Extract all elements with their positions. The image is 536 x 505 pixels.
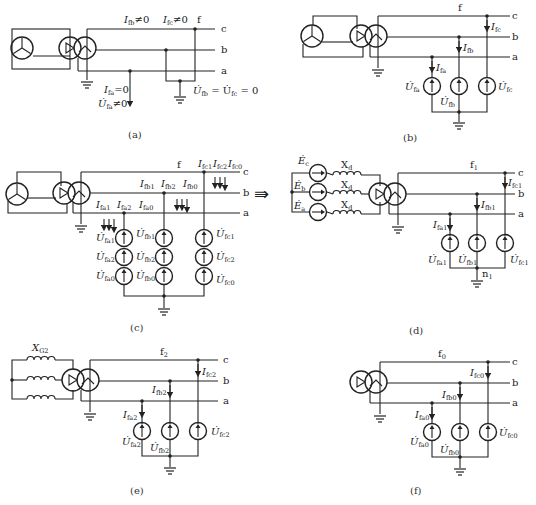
ufb2-label: U̇fb2: [150, 442, 169, 455]
phase-b-label: b: [223, 375, 229, 386]
ifc-label: Ifc: [490, 21, 501, 34]
current-arrows-c: [215, 177, 225, 188]
inductor-icon: [27, 357, 55, 361]
transformer-icon: [62, 369, 99, 391]
ufb-label: U̇fb: [440, 96, 455, 109]
ufa-label: U̇fa: [405, 81, 420, 94]
phase-c-label: c: [221, 23, 227, 34]
inductor-icon: [27, 377, 55, 381]
current-arrows-b: [177, 199, 187, 210]
transform-arrow-icon: ⇛: [254, 183, 269, 204]
emf-source-icon: [310, 165, 327, 182]
phase-a-label: a: [243, 207, 249, 218]
current-arrows-a: [104, 219, 114, 230]
ifc2-label: Ifc2: [201, 366, 216, 379]
emf-source-icon: [310, 204, 327, 221]
phase-c-label: c: [223, 354, 229, 365]
phase-a-label: a: [512, 51, 518, 62]
ufb-ufc-annotation: U̇fb = U̇fc = 0: [193, 85, 258, 98]
ufc2-label: U̇fc2: [216, 251, 235, 264]
phase-c-label: c: [512, 356, 518, 367]
ufc-label: U̇fc: [498, 81, 513, 94]
neutral-node-label: n1: [482, 268, 493, 281]
panel-e: XG2 f2 c b a Ifc2 Ifb2 Ifa2 U̇fa2 U̇fb2 …: [10, 342, 229, 496]
ufc1-label: U̇fc1: [216, 228, 235, 241]
caption-e: (e): [130, 485, 144, 496]
voltage-source-icon: [424, 78, 441, 95]
ufa-annotation: U̇fa≠0: [98, 98, 127, 111]
ifb2-label: Ifb2: [160, 178, 176, 191]
ufa1-label: U̇fa1: [428, 254, 447, 267]
inductor-icon: [333, 172, 361, 176]
ifc1-label: Ifc1: [197, 158, 212, 171]
ifa2-label: Ifa2: [116, 199, 131, 212]
panel-a: c b a f Ifb≠0 Ifc≠0 Ifa=0 U̇fa≠0 U̇fb = …: [11, 14, 258, 140]
xg2-label: XG2: [31, 342, 48, 355]
eb-label: Ėb: [293, 180, 305, 193]
xd-label: Xd: [341, 159, 352, 172]
generator-icon: [11, 37, 33, 59]
ifc-annotation: Ifc≠0: [162, 14, 188, 27]
ifc2-label: Ifc2: [212, 158, 227, 171]
caption-f: (f): [410, 485, 422, 496]
generator-icon: [301, 25, 323, 47]
ufb0-label: U̇fb0: [136, 270, 155, 283]
ufb1-label: U̇fb1: [136, 228, 155, 241]
voltage-source-icon: [451, 78, 468, 95]
ifb1-label: Ifb1: [480, 199, 496, 212]
phase-b-label: b: [221, 44, 227, 55]
fault-node-label: f0: [438, 348, 446, 361]
transformer-icon: [53, 182, 90, 204]
ea-label: Ėa: [293, 200, 305, 213]
ifa-annotation: Ifa=0: [103, 84, 129, 97]
ifa1-label: Ifa1: [432, 219, 447, 232]
phase-c-label: c: [518, 167, 524, 178]
phase-a-label: a: [223, 395, 229, 406]
ufc0-label: U̇fc0: [499, 427, 518, 440]
ifa0-label: Ifa0: [414, 409, 429, 422]
phase-b-label: b: [243, 187, 249, 198]
ifb1-label: Ifb1: [139, 178, 155, 191]
ufb2-label: U̇fb2: [136, 251, 155, 264]
ifa-label: Ifa: [435, 62, 446, 75]
caption-c: (c): [130, 322, 144, 333]
ufb1-label: U̇fb1: [458, 254, 477, 267]
ifa0-label: Ifa0: [138, 199, 153, 212]
phase-c-label: c: [512, 10, 518, 21]
inductor-icon: [333, 191, 361, 195]
ufa0-label: U̇fa0: [96, 270, 115, 283]
phase-a-label: a: [518, 208, 524, 219]
transformer-icon: [350, 371, 387, 393]
ufc1-label: U̇fc1: [510, 254, 529, 267]
caption-b: (b): [403, 132, 417, 143]
generator-icon: [6, 183, 28, 205]
ifb0-label: Ifb0: [182, 178, 198, 191]
voltage-source-icon: [479, 78, 496, 95]
ifa1-label: Ifa1: [95, 199, 110, 212]
ifc1-label: Ifc1: [507, 177, 522, 190]
panel-c: c b a f Ifc1 Ifc2 Ifc0 Ifb1 Ifb2 Ifb0 If…: [6, 158, 269, 333]
ifb0-label: Ifb0: [441, 389, 457, 402]
caption-a: (a): [128, 129, 142, 140]
fault-node-label: f: [458, 2, 463, 13]
circuit-figure: c b a f Ifb≠0 Ifc≠0 Ifa=0 U̇fa≠0 U̇fb = …: [0, 0, 536, 505]
fault-node-label: f1: [470, 159, 478, 172]
panel-f: f0 c b a Ifc0 Ifb0 Ifa0 U̇fa0 U̇fb0 U̇fc…: [350, 348, 518, 496]
ufc2-label: U̇fc2: [211, 426, 230, 439]
ufc0-label: U̇fc0: [216, 274, 235, 287]
transformer-icon: [350, 25, 387, 47]
inductor-icon: [333, 211, 361, 215]
fault-node-label: f2: [160, 346, 168, 359]
inductor-icon: [27, 396, 55, 400]
ufa2-label: U̇fa2: [96, 251, 115, 264]
phase-c-label: c: [243, 166, 249, 177]
transformer-icon: [369, 183, 406, 205]
phase-b-label: b: [512, 377, 518, 388]
circuit-diagram-svg: c b a f Ifb≠0 Ifc≠0 Ifa=0 U̇fa≠0 U̇fb = …: [0, 0, 536, 505]
fault-node-label: f: [177, 159, 182, 170]
ufb0-label: U̇fb0: [440, 444, 459, 457]
phase-a-label: a: [221, 65, 227, 76]
panel-b: c b a f Ifc Ifb Ifa U̇fa U̇fb U̇fc (b): [301, 2, 518, 143]
fault-node-label: f: [197, 14, 202, 25]
panel-d: Ėc Ėb Ėa Xd Xd Xd c b a f1 Ifc1 Ifb1 Ifa…: [290, 155, 528, 336]
